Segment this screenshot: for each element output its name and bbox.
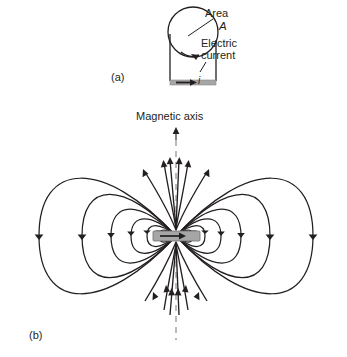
panel-b-label: (b) bbox=[29, 329, 42, 342]
axial-field-line bbox=[164, 244, 176, 310]
magnetic-axis-arrow bbox=[173, 127, 180, 140]
figure-root: Area A Electric current i (a) bbox=[0, 0, 347, 357]
axial-field-line bbox=[164, 163, 176, 228]
magnetic-axis-label: Magnetic axis bbox=[136, 110, 203, 123]
panel-b-diagram bbox=[0, 0, 347, 357]
axial-field-line-group-bottom bbox=[145, 242, 207, 315]
